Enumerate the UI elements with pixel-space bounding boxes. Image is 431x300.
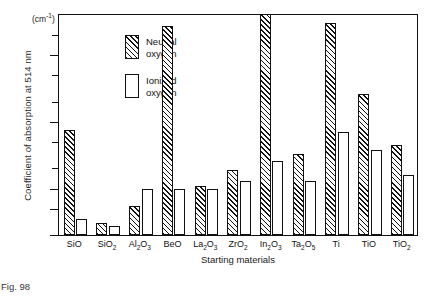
x-axis-label-SiO2: SiO2 [91,239,124,251]
legend-item-ionized-oxygen: Ionized oxygen [125,74,235,98]
x-axis-label-In2O3: In2O3 [254,239,287,251]
bar-La2O3-neutral-oxygen [195,186,206,235]
x-axis-label-BeO: BeO [156,239,189,249]
bar-ZrO2-neutral-oxygen [227,170,238,235]
x-axis-label-Ta2O5: Ta2O5 [287,239,320,251]
bar-SiO2-neutral-oxygen [96,223,107,235]
bar-Al2O3-neutral-oxygen [129,206,140,235]
bar-SiO2-ionized-oxygen [109,226,120,235]
figure-caption: Fig. 98 [1,281,30,292]
x-axis-label-TiO2: TiO2 [385,239,418,251]
units-suffix: ) [52,14,55,24]
units-prefix: (cm [32,14,46,24]
bar-Ti-neutral-oxygen [325,23,336,235]
bar-BeO-neutral-oxygen [162,26,173,235]
x-axis-title: Starting materials [58,254,418,265]
legend-swatch-hatched-icon [125,35,139,59]
bar-La2O3-ionized-oxygen [207,189,218,235]
bar-TiO-neutral-oxygen [358,94,369,235]
chart-legend: Neutral oxygen Ionized oxygen [125,35,235,113]
legend-swatch-white-icon [125,74,139,98]
bar-SiO-ionized-oxygen [76,219,87,235]
y-axis-title: Coefficient of absorption at 514 nm [22,16,33,236]
bar-ZrO2-ionized-oxygen [240,181,251,235]
bar-TiO-ionized-oxygen [371,150,382,235]
bar-Al2O3-ionized-oxygen [142,189,153,235]
bar-TiO2-neutral-oxygen [391,145,402,235]
figure-container: Coefficient of absorption at 514 nm (cm-… [0,0,431,300]
bar-In2O3-neutral-oxygen [260,14,271,235]
bar-Ta2O5-ionized-oxygen [305,181,316,235]
x-axis-label-La2O3: La2O3 [189,239,222,251]
x-axis-label-ZrO2: ZrO2 [222,239,255,251]
bar-TiO2-ionized-oxygen [403,175,414,235]
y-axis-tick-major [50,235,58,236]
y-axis-tick-major [50,209,58,210]
legend-item-neutral-oxygen: Neutral oxygen [125,35,235,59]
y-axis-tick-major [50,122,58,123]
y-axis-tick-major [50,189,58,190]
plot-area: Neutral oxygen Ionized oxygen [58,14,418,236]
y-axis-tick-major [50,55,58,56]
bar-Ta2O5-neutral-oxygen [293,154,304,235]
bar-In2O3-ionized-oxygen [272,161,283,235]
x-axis-label-Ti: Ti [320,239,353,249]
bars-container [59,15,417,235]
y-axis-units-label: (cm-1) [32,12,55,24]
bar-SiO-neutral-oxygen [64,130,75,235]
bar-BeO-ionized-oxygen [174,189,185,235]
x-axis-label-TiO: TiO [353,239,386,249]
bar-Ti-ionized-oxygen [338,132,349,235]
x-axis-label-SiO: SiO [58,239,91,249]
x-axis-label-Al2O3: Al2O3 [123,239,156,251]
